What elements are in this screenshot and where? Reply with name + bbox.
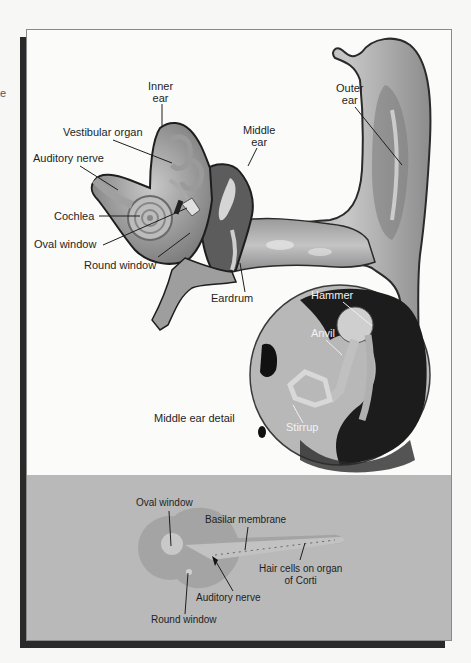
label-oval-window: Oval window — [34, 238, 96, 250]
label-anvil: Anvil — [311, 327, 335, 339]
label-eardrum: Eardrum — [211, 292, 253, 304]
ear-illustration — [0, 0, 471, 663]
label-line: ear — [148, 92, 173, 104]
label-line: Middle — [243, 124, 275, 136]
schematic-label-round-window: Round window — [151, 614, 217, 626]
label-line: Inner — [148, 80, 173, 92]
label-cochlea: Cochlea — [54, 210, 94, 222]
label-inner-ear: Inner ear — [148, 80, 173, 104]
middle-ear-detail-circle — [250, 285, 430, 472]
label-line: of Corti — [259, 575, 342, 587]
label-round-window: Round window — [84, 259, 156, 271]
label-outer-ear: Outer ear — [336, 82, 364, 106]
label-line: ear — [243, 136, 275, 148]
schematic-label-basilar-membrane: Basilar membrane — [205, 514, 286, 526]
label-hammer: Hammer — [311, 289, 353, 301]
schematic-label-oval-window: Oval window — [136, 497, 193, 509]
schematic-label-auditory-nerve: Auditory nerve — [196, 592, 260, 604]
label-auditory-nerve: Auditory nerve — [33, 152, 104, 164]
schematic-label-hair-cells: Hair cells on organ of Corti — [259, 563, 342, 587]
label-middle-ear: Middle ear — [243, 124, 275, 148]
inner-ear-shape — [92, 123, 212, 264]
label-vestibular-organ: Vestibular organ — [63, 126, 143, 138]
label-line: Hair cells on organ — [259, 563, 342, 575]
label-line: ear — [336, 94, 364, 106]
middle-ear-detail-caption: Middle ear detail — [154, 412, 235, 424]
label-line: Outer — [336, 82, 364, 94]
label-stirrup: Stirrup — [286, 421, 318, 433]
